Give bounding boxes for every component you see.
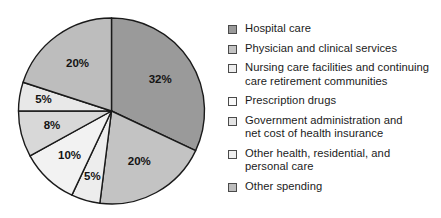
- legend-item-label: Physician and clinical services: [245, 42, 439, 55]
- legend-color-swatch-icon: [228, 183, 237, 192]
- pie-slice-value-label: 5%: [35, 93, 52, 105]
- legend-item-label: Nursing care facilities and continuing c…: [245, 61, 439, 87]
- legend-item-label: Other spending: [245, 180, 439, 193]
- legend-item[interactable]: Hospital care: [228, 22, 439, 35]
- pie-slice-value-label: 5%: [84, 170, 101, 182]
- pie-chart-figure: 32%20%5%10%8%5%20% Hospital carePhysicia…: [0, 0, 441, 218]
- legend-item-label: Government administration and net cost o…: [245, 114, 439, 140]
- legend-item-label: Hospital care: [245, 22, 439, 35]
- pie-slice-value-label: 8%: [44, 119, 61, 131]
- legend-item[interactable]: Other spending: [228, 180, 439, 193]
- pie-chart-plot-area: 32%20%5%10%8%5%20%: [0, 0, 224, 218]
- legend-item[interactable]: Prescription drugs: [228, 94, 439, 107]
- pie-slice-value-label: 20%: [66, 57, 89, 69]
- pie-slice-value-label: 32%: [149, 73, 172, 85]
- legend-color-swatch-icon: [228, 150, 237, 159]
- legend-item[interactable]: Physician and clinical services: [228, 42, 439, 55]
- pie-slice-value-label: 20%: [128, 155, 151, 167]
- legend-color-swatch-icon: [228, 117, 237, 126]
- legend-color-swatch-icon: [228, 97, 237, 106]
- chart-legend: Hospital carePhysician and clinical serv…: [228, 22, 439, 200]
- legend-item[interactable]: Government administration and net cost o…: [228, 114, 439, 140]
- legend-color-swatch-icon: [228, 25, 237, 34]
- pie-slice-group: [18, 18, 204, 204]
- pie-slice-value-label: 10%: [58, 149, 81, 161]
- legend-item-label: Prescription drugs: [245, 94, 439, 107]
- legend-item[interactable]: Nursing care facilities and continuing c…: [228, 61, 439, 87]
- legend-item[interactable]: Other health, residential, and personal …: [228, 147, 439, 173]
- pie-chart-svg: 32%20%5%10%8%5%20%: [0, 0, 224, 218]
- legend-color-swatch-icon: [228, 45, 237, 54]
- legend-item-label: Other health, residential, and personal …: [245, 147, 439, 173]
- legend-color-swatch-icon: [228, 64, 237, 73]
